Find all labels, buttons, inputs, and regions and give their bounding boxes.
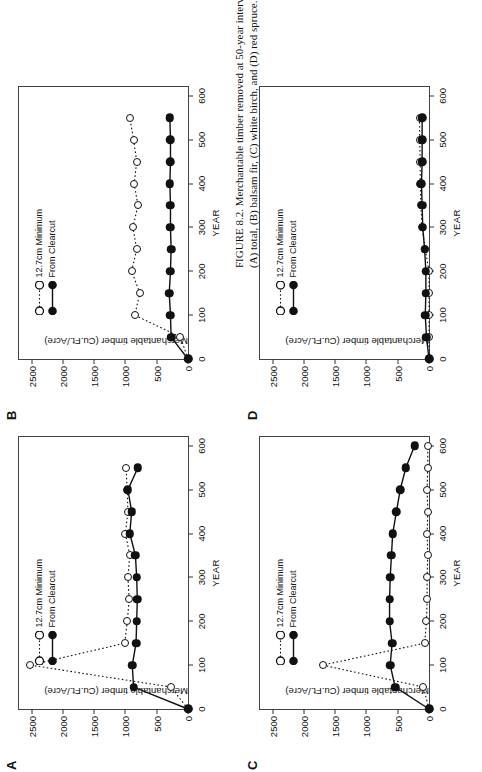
ytick-label: 1500 [330,716,341,737]
series-line-filled [421,118,429,359]
data-point-open [122,464,130,472]
data-point-open [319,661,327,669]
panel-a-letter: A [4,761,19,770]
data-point-open [424,508,432,516]
figure-8-2: A Merchantable timber (Cu.Ft./Acre) 0500… [0,0,482,772]
ytick-label: 2500 [26,716,37,737]
series-line-filled [169,118,188,359]
ytick-mark [94,359,95,364]
ytick-label: 500 [392,716,403,732]
data-point-filled [388,639,397,648]
ytick-label: 1500 [330,366,341,387]
data-point-filled [166,157,175,166]
ytick-label: 2500 [267,716,278,737]
xtick-label: 0 [437,706,448,711]
ytick-label: 500 [392,366,403,382]
data-point-filled [422,333,431,342]
xtick-label: 400 [437,526,448,542]
data-point-filled [422,289,431,298]
xtick-label: 300 [437,219,448,235]
data-point-filled [166,201,175,210]
panel-b-xlabel: YEAR [210,87,221,359]
xtick-mark [429,139,434,140]
data-point-filled [184,705,193,714]
data-point-open [421,639,429,647]
data-point-open [424,464,432,472]
xtick-label: 100 [196,307,207,323]
filled-circle-icon [46,631,59,665]
xtick-label: 400 [196,526,207,542]
legend-label-filled: From Clearcut [288,570,299,627]
series-line-open [130,118,188,359]
data-point-open [133,245,141,253]
legend-label-filled: From Clearcut [47,570,58,627]
data-point-filled [410,442,419,451]
data-point-filled [421,311,430,320]
ytick-label: 2000 [57,366,68,387]
ytick-label: 1000 [361,366,372,387]
ytick-mark [366,359,367,364]
panel-a-legend: 12.7cm Minimum From Clearcut [33,559,59,666]
data-point-filled [391,683,400,692]
ytick-mark [397,709,398,714]
data-point-filled [166,135,175,144]
panel-b-legend: 12.7cm Minimum From Clearcut [33,209,59,316]
panel-d-legend: 12.7cm Minimum From Clearcut [274,209,300,316]
data-point-open [423,486,431,494]
ytick-mark [335,709,336,714]
xtick-label: 300 [196,219,207,235]
panel-c-plot: Merchantable timber (Cu.Ft./Acre) 050010… [259,436,430,710]
data-point-open [419,683,427,691]
data-point-filled [388,529,397,538]
data-point-filled [418,223,427,232]
panel-d-plot: Merchantable timber (Cu.Ft./Acre) 050010… [259,86,430,360]
ytick-mark [31,359,32,364]
data-point-filled [402,463,411,472]
xtick-mark [188,577,193,578]
xtick-mark [429,665,434,666]
xtick-mark [188,227,193,228]
data-point-filled [167,333,176,342]
data-point-filled [425,705,434,714]
data-point-filled [425,355,434,364]
ytick-mark [94,709,95,714]
data-point-filled [420,245,429,254]
data-point-filled [392,507,401,516]
data-point-filled [166,311,175,320]
xtick-label: 500 [437,132,448,148]
data-point-filled [422,267,431,276]
ytick-mark [62,709,63,714]
xtick-label: 100 [437,657,448,673]
data-point-filled [165,289,174,298]
ytick-label: 2500 [267,366,278,387]
legend-row-open: 12.7cm Minimum [33,209,46,316]
xtick-label: 300 [196,569,207,585]
legend-row-open: 12.7cm Minimum [274,209,287,316]
data-point-open [121,639,129,647]
data-point-open [126,114,134,122]
panel-c-letter: C [245,761,260,770]
data-point-open [129,223,137,231]
xtick-label: 200 [437,613,448,629]
xtick-label: 100 [437,307,448,323]
open-circle-icon [33,281,46,315]
panel-c-xlabel: YEAR [451,437,462,709]
panel-a-xlabel: YEAR [210,437,221,709]
xtick-mark [188,621,193,622]
caption-lead: FIGURE 8.2. [233,209,245,268]
legend-label-open: 12.7cm Minimum [275,209,286,278]
ytick-label: 0 [183,716,194,721]
series-line-open [323,446,429,709]
xtick-label: 600 [196,88,207,104]
ytick-mark [125,359,126,364]
xtick-mark [188,665,193,666]
legend-row-filled: From Clearcut [46,559,59,666]
data-point-open [167,683,175,691]
ytick-mark [62,359,63,364]
xtick-label: 500 [437,482,448,498]
data-point-filled [131,551,140,560]
xtick-label: 500 [196,132,207,148]
xtick-label: 0 [437,356,448,361]
panel-c: C Merchantable timber (Cu.Ft./Acre) 0500… [241,422,482,772]
filled-circle-icon [287,631,300,665]
